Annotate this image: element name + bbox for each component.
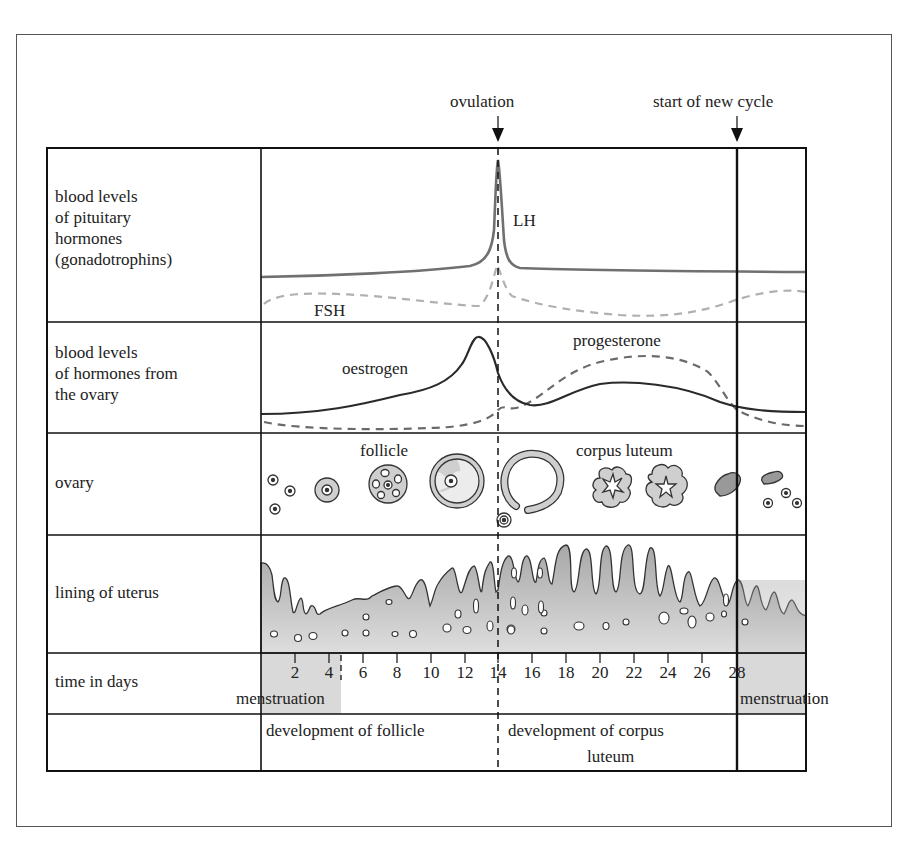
day-label: 14 (490, 663, 507, 683)
follicle-development-label: development of follicle (266, 720, 425, 741)
day-label: 10 (423, 663, 440, 683)
day-label: 12 (457, 663, 474, 683)
day-label: 22 (626, 663, 643, 683)
corpus-development-label-2: luteum (587, 746, 634, 767)
ovulation-label: ovulation (450, 91, 514, 112)
new-cycle-label: start of new cycle (653, 91, 773, 112)
day-label: 2 (291, 663, 300, 683)
follicle-label: follicle (360, 440, 408, 461)
menstruation-end-label: menstruation (740, 688, 829, 709)
day-label: 28 (729, 663, 746, 683)
released-egg-icon (497, 513, 511, 527)
day-label: 18 (558, 663, 575, 683)
oestrogen-label: oestrogen (342, 358, 408, 379)
corpus-luteum-icon (593, 465, 687, 508)
day-label: 4 (325, 663, 334, 683)
menstruation-start-label: menstruation (236, 688, 325, 709)
row-label-pituitary: blood levels of pituitary hormones (gona… (55, 186, 172, 270)
lh-label: LH (513, 210, 536, 231)
row-label-uterus: lining of uterus (55, 582, 159, 603)
row-label-ovary: ovary (55, 472, 94, 493)
day-label: 26 (694, 663, 711, 683)
ovary-illustrations (268, 454, 802, 527)
new-cycle-arrow-icon (731, 116, 743, 142)
primary-follicles-icon (268, 475, 295, 514)
day-label: 8 (393, 663, 402, 683)
new-follicles-icon (764, 489, 802, 508)
degenerating-corpus-icon (715, 471, 783, 496)
ruptured-follicle-icon (504, 454, 560, 510)
cycle-diagram (0, 0, 914, 847)
day-ticks (295, 653, 737, 663)
day-label: 24 (660, 663, 677, 683)
ovulation-arrow-icon (492, 116, 504, 142)
secondary-follicle-icon (369, 465, 407, 503)
progesterone-label: progesterone (573, 330, 661, 351)
growing-follicle-icon (315, 478, 339, 502)
mature-follicle-icon (430, 454, 484, 508)
uterus-lining-illustration (261, 545, 806, 653)
fsh-label: FSH (314, 300, 345, 321)
corpus-luteum-label: corpus luteum (576, 440, 673, 461)
row-label-ovarian-hormones: blood levels of hormones from the ovary (55, 342, 178, 405)
day-label: 6 (359, 663, 368, 683)
row-label-time: time in days (55, 671, 138, 692)
day-label: 20 (592, 663, 609, 683)
corpus-development-label-1: development of corpus (508, 720, 664, 741)
day-label: 16 (524, 663, 541, 683)
